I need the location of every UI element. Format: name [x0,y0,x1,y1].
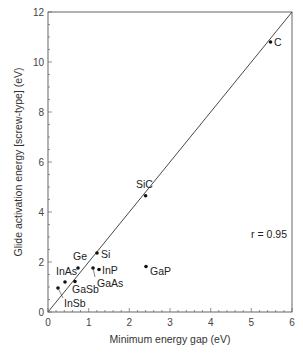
data-point-inp [97,268,101,272]
data-point-inas [63,280,67,284]
correlation-annotation: r = 0.95 [251,228,287,240]
y-tick-label: 0 [38,307,44,318]
label-inas: InAs [56,265,77,277]
y-tick-label: 6 [38,157,44,168]
x-tick-label: 6 [289,317,295,328]
label-gap: GaP [150,265,171,277]
label-gasb: GaSb [72,283,99,295]
x-axis-title: Minimum energy gap (eV) [110,333,231,345]
label-ge: Ge [73,250,87,262]
y-axis-ticks [48,12,52,312]
x-tick-label: 4 [208,317,214,328]
x-tick-label: 1 [86,317,92,328]
y-tick-label: 8 [38,107,44,118]
label-gaas: GaAs [97,277,123,289]
label-c: C [274,36,282,48]
data-point-gap [144,265,148,269]
data-points [56,40,272,290]
label-inp: InP [102,264,118,276]
data-point-c [269,40,273,44]
x-tick-labels: 0 1 2 3 4 5 6 [45,317,295,328]
y-tick-label: 12 [33,7,45,18]
data-point-sic [144,194,148,198]
label-si: Si [101,248,110,260]
label-insb: InSb [64,297,86,309]
x-tick-label: 2 [127,317,133,328]
y-axis-title: Glide activation energy [screw-type] (eV… [12,67,24,256]
y-tick-label: 2 [38,257,44,268]
label-sic: SiC [136,178,153,190]
x-tick-label: 5 [249,317,255,328]
y-tick-labels: 0 2 4 6 8 10 12 [33,7,45,318]
x-tick-label: 3 [167,317,173,328]
y-tick-label: 4 [38,207,44,218]
data-point-si [95,251,99,255]
scatter-chart: 0 1 2 3 4 5 6 0 2 4 6 8 10 12 Minimum en… [0,0,303,356]
point-labels: C SiC Si Ge InAs GaSb InSb InP GaAs GaP [56,36,282,309]
x-tick-label: 0 [45,317,51,328]
y-tick-label: 10 [33,57,45,68]
